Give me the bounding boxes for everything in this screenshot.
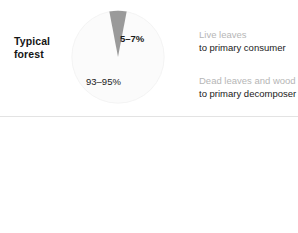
forest-dead-percent: 93–95% — [86, 76, 121, 87]
forest-legend-live-sub: to primary consumer — [199, 41, 286, 54]
forest-legend-dead-sub: to primary decomposer — [199, 87, 296, 100]
forest-legend-dead: Dead leaves and wood to primary decompos… — [199, 74, 296, 100]
forest-live-percent: 5–7% — [120, 33, 144, 44]
forest-legend-dead-title: Dead leaves and wood — [199, 74, 296, 87]
marine-panel: Typical marine system 35–40% 60–65% Live… — [0, 117, 298, 233]
forest-panel: Typical forest 5–7% 93–95% Live leaves t… — [0, 0, 298, 116]
forest-legend-live-title: Live leaves — [199, 28, 286, 41]
forest-pie-chart — [71, 10, 165, 104]
forest-row-label: Typical forest — [14, 35, 50, 61]
forest-legend-live: Live leaves to primary consumer — [199, 28, 286, 54]
